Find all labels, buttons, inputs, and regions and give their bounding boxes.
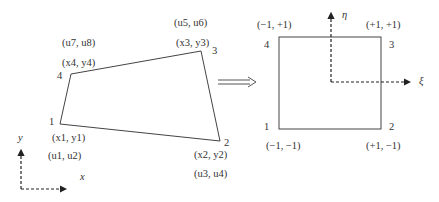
- ref-node2-id: 2: [389, 122, 394, 133]
- reference-square: [279, 37, 381, 129]
- eta-axis-label: η: [342, 10, 347, 21]
- ref-node3-id: 3: [389, 40, 394, 51]
- node2-dof-label: (u3, u4): [194, 169, 227, 180]
- node1-coord-label: (x1, y1): [52, 133, 85, 144]
- ref-node4-id: 4: [264, 40, 269, 51]
- y-axis-label: y: [18, 133, 23, 144]
- node1-dof-label: (u1, u2): [48, 151, 81, 162]
- node2-coord-label: (x2, y2): [194, 150, 227, 161]
- node4-coord-label: (x4, y4): [62, 58, 95, 69]
- node4-dof-label: (u7, u8): [62, 38, 95, 49]
- node3-dof-label: (u5, u6): [174, 18, 207, 29]
- ref-node4-coord-label: (−1, +1): [257, 20, 292, 31]
- node4-id: 4: [57, 71, 62, 82]
- mapping-arrow-icon: [218, 77, 256, 87]
- node1-id: 1: [49, 117, 54, 128]
- node2-id: 2: [224, 138, 229, 149]
- x-axis-label: x: [80, 172, 85, 183]
- ref-node1-coord-label: (−1, −1): [266, 141, 301, 152]
- ref-node1-id: 1: [264, 122, 269, 133]
- ref-node3-coord-label: (+1, +1): [366, 20, 401, 31]
- node3-coord-label: (x3, y3): [176, 38, 209, 49]
- ref-node2-coord-label: (+1, −1): [366, 141, 401, 152]
- node3-id: 3: [212, 46, 217, 57]
- xi-axis-label: ξ: [419, 76, 424, 87]
